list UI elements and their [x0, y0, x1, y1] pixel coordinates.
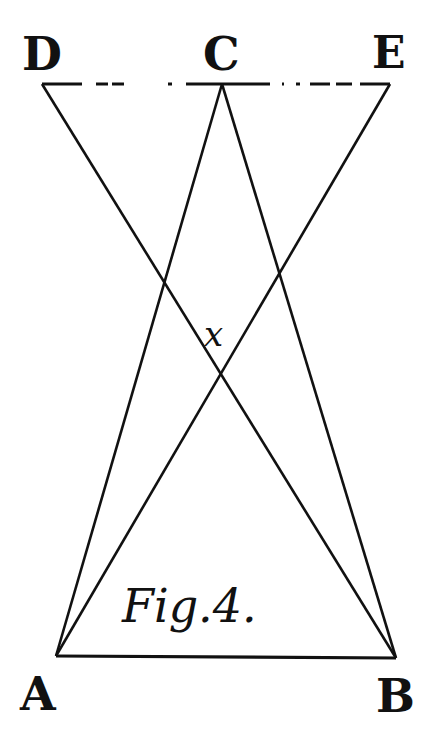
line-AC	[56, 84, 222, 656]
line-EA	[56, 84, 390, 656]
label-B: B	[376, 669, 415, 723]
label-x-intersection: x	[204, 314, 223, 354]
figure-caption: Fig.4.	[121, 579, 257, 633]
line-BC	[222, 84, 396, 658]
line-DB	[42, 84, 396, 658]
line-AB	[56, 656, 396, 658]
label-D: D	[22, 27, 62, 81]
label-A: A	[19, 667, 57, 721]
label-E: E	[372, 27, 406, 78]
geometry-figure: D C E A B x Fig.4.	[0, 0, 447, 738]
label-C: C	[203, 27, 240, 81]
